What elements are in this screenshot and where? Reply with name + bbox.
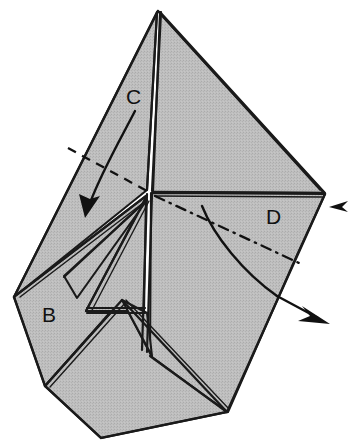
edge-center-to-right-vertex	[153, 192, 324, 193]
label-D: D	[266, 205, 281, 228]
origami-figure: C B D	[0, 0, 355, 447]
label-C: C	[126, 85, 141, 108]
small-pointer-arrow-right-edge	[329, 201, 348, 212]
origami-diagram-canvas: C B D	[0, 0, 355, 447]
edge-center-to-right-vertex-shadow	[155, 196, 322, 197]
label-B: B	[42, 303, 56, 326]
